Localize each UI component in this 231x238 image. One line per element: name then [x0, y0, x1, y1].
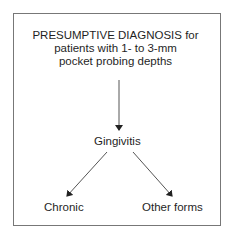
node-chronic: Chronic	[44, 201, 84, 214]
arrow-gingivitis-to-other	[133, 152, 172, 196]
node-other-forms: Other forms	[142, 201, 203, 214]
node-gingivitis: Gingivitis	[94, 135, 141, 148]
arrow-gingivitis-to-chronic	[67, 152, 107, 196]
